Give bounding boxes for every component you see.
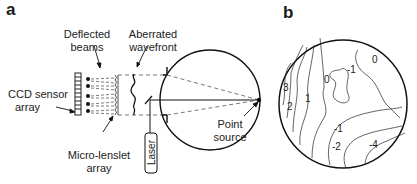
cornea-lens-top xyxy=(163,67,167,75)
aberrated-wavefront xyxy=(131,74,135,115)
beam-envelope xyxy=(118,75,259,115)
label-aberrated-line2: wavefront xyxy=(118,41,188,54)
svg-text:-2: -2 xyxy=(332,141,341,152)
deflected-beams xyxy=(91,78,115,114)
svg-text:0: 0 xyxy=(324,74,330,85)
label-ccd-sensor: CCD sensor array xyxy=(3,88,73,114)
label-lenslet-line2: array xyxy=(62,162,136,175)
label-laser: Laser xyxy=(145,133,158,173)
svg-text:-4: -4 xyxy=(369,139,378,150)
svg-text:-1: -1 xyxy=(334,123,343,134)
label-deflected-beams: Deflected beams xyxy=(52,28,122,54)
label-aberrated-wavefront: Aberrated wavefront xyxy=(118,28,188,54)
svg-text:3: 3 xyxy=(283,82,289,93)
label-aberrated-line1: Aberrated xyxy=(118,28,188,41)
label-micro-lenslet: Micro-lenslet array xyxy=(62,149,136,175)
ccd-sensor-array xyxy=(75,73,81,115)
label-deflected-beams-line1: Deflected xyxy=(52,28,122,41)
label-deflected-beams-line2: beams xyxy=(52,41,122,54)
wavefront-map: 0 -1 0 3 1 2 -1 -2 -4 xyxy=(279,38,407,168)
label-point-line1: Point xyxy=(205,118,255,131)
label-ccd-line1: CCD sensor xyxy=(3,88,73,101)
label-point-line2: source xyxy=(205,131,255,144)
svg-text:2: 2 xyxy=(287,101,293,112)
label-point-source: Point source xyxy=(205,118,255,144)
point-source xyxy=(257,98,261,102)
svg-text:1: 1 xyxy=(305,93,311,104)
spots xyxy=(86,77,90,113)
label-ccd-line2: array xyxy=(3,101,73,114)
svg-text:-1: -1 xyxy=(347,64,356,75)
svg-text:0: 0 xyxy=(372,54,378,65)
label-lenslet-line1: Micro-lenslet xyxy=(62,149,136,162)
micro-lenslet-array xyxy=(115,75,118,115)
